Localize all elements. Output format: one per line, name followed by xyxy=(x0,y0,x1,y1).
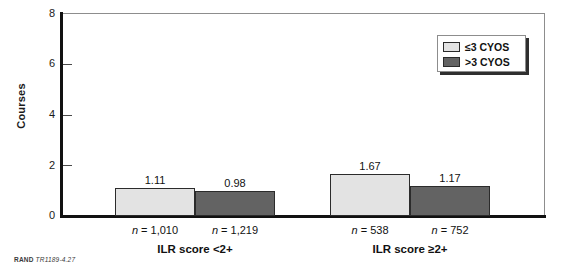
credit-brand: RAND xyxy=(14,256,34,263)
legend-item-gt3-cyos[interactable]: >3 CYOS xyxy=(443,55,520,69)
y-axis-title: Courses xyxy=(15,71,27,141)
y-tick-mark-6 xyxy=(63,64,72,65)
legend-swatch-icon-light xyxy=(443,42,460,52)
figure-container: Courses 8 6 4 2 0 1.11 0.98 n = 1,010 n … xyxy=(0,0,567,277)
n-value-group2-series1: = 538 xyxy=(361,224,389,236)
group-label-ilr-ge-2: ILR score ≥2+ xyxy=(310,243,510,256)
figure-credit: RAND TR1189-4.27 xyxy=(14,256,75,264)
y-tick-label-2: 2 xyxy=(33,160,55,171)
y-tick-mark-2 xyxy=(63,165,72,166)
n-value-group1-series1: = 1,010 xyxy=(141,224,178,236)
n-symbol-group1-series1: n xyxy=(132,224,138,236)
bar-value-group2-series1: 1.67 xyxy=(340,161,400,172)
bar-group2-series1[interactable] xyxy=(330,174,410,216)
legend-label-le3-cyos: ≤3 CYOS xyxy=(465,42,509,53)
y-tick-label-4: 4 xyxy=(33,109,55,120)
credit-number: TR1189-4.27 xyxy=(36,256,76,263)
bar-value-group1-series2: 0.98 xyxy=(205,178,265,189)
legend-box: ≤3 CYOS >3 CYOS xyxy=(437,35,526,72)
n-symbol-group2-series1: n xyxy=(351,224,357,236)
y-tick-label-0: 0 xyxy=(33,210,55,221)
bar-group1-series1[interactable] xyxy=(115,188,195,216)
n-value-group2-series2: = 752 xyxy=(441,224,469,236)
n-label-group2-series2: n = 752 xyxy=(395,224,505,236)
y-tick-label-8: 8 xyxy=(33,8,55,19)
legend-item-le3-cyos[interactable]: ≤3 CYOS xyxy=(443,40,520,54)
n-label-group1-series2: n = 1,219 xyxy=(180,224,290,236)
legend-label-gt3-cyos: >3 CYOS xyxy=(465,57,510,68)
group-label-ilr-lt-2: ILR score <2+ xyxy=(95,243,295,256)
n-value-group1-series2: = 1,219 xyxy=(221,224,258,236)
legend-swatch-icon-dark xyxy=(443,57,460,67)
n-symbol-group2-series2: n xyxy=(431,224,437,236)
bar-value-group2-series2: 1.17 xyxy=(420,173,480,184)
bar-group1-series2[interactable] xyxy=(195,191,275,216)
n-symbol-group1-series2: n xyxy=(212,224,218,236)
bar-group2-series2[interactable] xyxy=(410,186,490,216)
y-tick-label-6: 6 xyxy=(33,58,55,69)
bar-value-group1-series1: 1.11 xyxy=(125,175,185,186)
y-tick-mark-4 xyxy=(63,115,72,116)
